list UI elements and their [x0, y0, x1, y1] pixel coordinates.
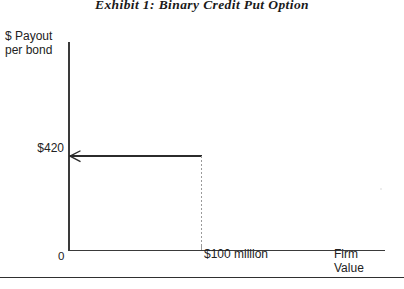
payout-level-line — [69, 155, 202, 157]
origin-label: 0 — [58, 249, 64, 263]
scan-speck — [380, 188, 382, 190]
y-tick-label-420: $420 — [8, 141, 64, 155]
strike-dashed-drop-line — [201, 156, 202, 250]
payout-arrow-icon — [69, 150, 81, 163]
y-axis-label: $ Payout per bond — [5, 29, 52, 57]
x-tick-label-100-million: $100 million — [204, 247, 268, 261]
page-bottom-rule — [0, 277, 404, 279]
x-axis-tick-100-million — [201, 244, 202, 250]
chart-title: Exhibit 1: Binary Credit Put Option — [0, 0, 404, 13]
y-axis-line — [68, 42, 70, 251]
x-axis-label: Firm Value — [334, 247, 364, 275]
exhibit-figure: Exhibit 1: Binary Credit Put Option $ Pa… — [0, 0, 404, 289]
